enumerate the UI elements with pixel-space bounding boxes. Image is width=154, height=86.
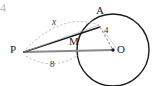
point-label-P: P xyxy=(10,44,16,55)
point-label-O: O xyxy=(117,44,125,55)
point-label-A: A xyxy=(96,5,104,16)
length-label-4: 4 xyxy=(104,26,109,35)
geometry-figure: 4 A P M O x 8 4 xyxy=(0,0,154,86)
length-label-x: x xyxy=(52,18,56,28)
segment-PO xyxy=(24,50,113,52)
overdraw-stroke-PA xyxy=(24,25,99,52)
center-dot-O xyxy=(111,48,114,51)
point-label-M: M xyxy=(69,36,79,47)
length-label-8: 8 xyxy=(50,60,55,69)
measure-arc-x xyxy=(26,22,99,49)
